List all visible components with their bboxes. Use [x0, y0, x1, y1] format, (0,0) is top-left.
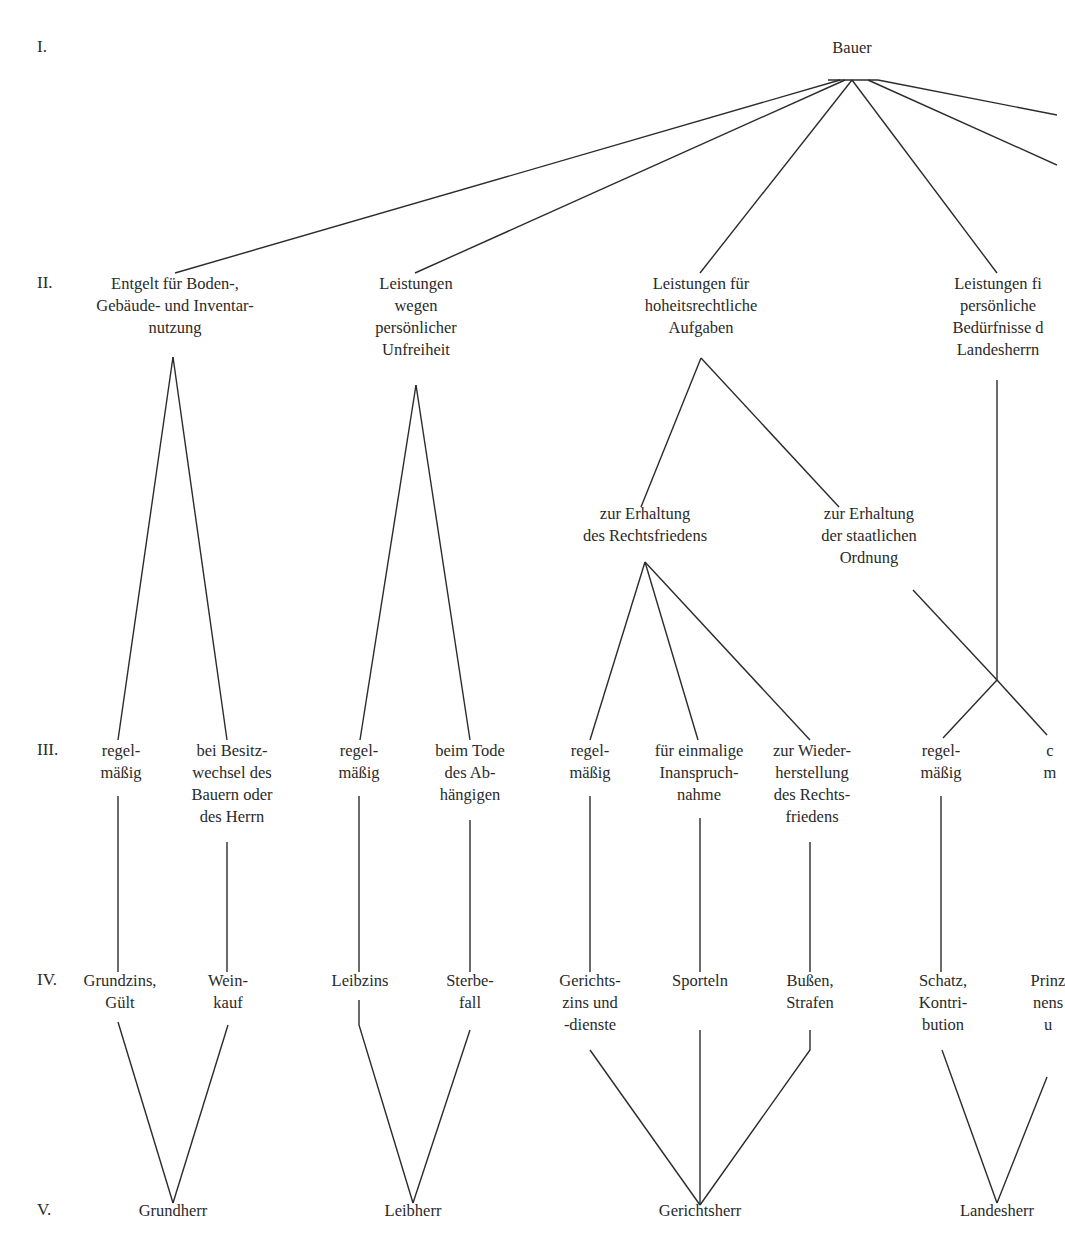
connector-line: [913, 590, 997, 680]
node-besitzwechsel: bei Besitz- wechsel des Bauern oder des …: [191, 740, 272, 828]
connector-line: [118, 1022, 173, 1203]
connector-line: [700, 80, 852, 273]
node-regelmaessig-2: regel- mäßig: [338, 740, 379, 784]
level-label-5: V.: [37, 1200, 51, 1220]
connector-line: [118, 357, 173, 740]
connector-line: [590, 1050, 700, 1205]
node-regelmaessig-1: regel- mäßig: [100, 740, 141, 784]
connector-line: [175, 80, 840, 273]
node-entgelt-nutzung: Entgelt für Boden-, Gebäude- und Inventa…: [96, 273, 253, 339]
connector-line: [173, 1025, 228, 1203]
node-cut-off-prinz: Prinz nens u: [1031, 970, 1065, 1036]
connector-line: [852, 80, 997, 273]
connector-line: [415, 80, 845, 273]
node-regelmaessig-4: regel- mäßig: [920, 740, 961, 784]
connector-line: [943, 680, 997, 738]
node-leibherr: Leibherr: [385, 1200, 442, 1222]
node-hoheitsrechtliche-aufgaben: Leistungen für hoheitsrechtliche Aufgabe…: [645, 273, 758, 339]
node-gerichtszins: Gerichts- zins und -dienste: [559, 970, 620, 1036]
node-gerichtsherr: Gerichtsherr: [659, 1200, 741, 1222]
connector-line: [641, 358, 701, 507]
connector-line: [359, 1000, 413, 1203]
node-wiederherstellung: zur Wieder- herstellung des Rechts- frie…: [773, 740, 851, 828]
node-bauer: Bauer: [832, 37, 871, 59]
connector-line: [700, 1030, 810, 1205]
node-leibzins: Leibzins: [332, 970, 389, 992]
node-erhaltung-rechtsfrieden: zur Erhaltung des Rechtsfriedens: [583, 503, 707, 547]
connector-line: [416, 385, 470, 740]
level-label-1: I.: [37, 37, 47, 57]
level-label-4: IV.: [37, 970, 57, 990]
node-unfreiheit: Leistungen wegen persönlicher Unfreiheit: [375, 273, 457, 361]
connector-line: [173, 357, 227, 740]
node-grundherr: Grundherr: [139, 1200, 208, 1222]
connector-line: [868, 80, 1057, 165]
connector-line: [645, 562, 698, 740]
node-weinkauf: Wein- kauf: [208, 970, 248, 1014]
node-grundzins: Grundzins, Gült: [84, 970, 157, 1014]
node-regelmaessig-3: regel- mäßig: [569, 740, 610, 784]
connector-line: [942, 1050, 997, 1203]
node-schatz-kontribution: Schatz, Kontri- bution: [919, 970, 968, 1036]
level-label-3: III.: [37, 740, 58, 760]
node-landesherr: Landesherr: [960, 1200, 1034, 1222]
node-erhaltung-staatliche-ordnung: zur Erhaltung der staatlichen Ordnung: [821, 503, 917, 569]
connector-line: [360, 385, 416, 740]
connector-line: [413, 1030, 470, 1203]
node-cut-off-level3: c m: [1044, 740, 1057, 784]
connector-line: [878, 80, 1057, 115]
node-beduerfnisse-landesherrn: Leistungen fi persönliche Bedürfnisse d …: [952, 273, 1043, 361]
connector-line: [997, 680, 1047, 735]
node-sterbefall: Sterbe- fall: [446, 970, 494, 1014]
level-label-2: II.: [37, 273, 53, 293]
node-sporteln: Sporteln: [672, 970, 728, 992]
node-einmalige-inanspruchnahme: für einmalige Inanspruch- nahme: [655, 740, 743, 806]
node-bussen-strafen: Bußen, Strafen: [786, 970, 834, 1014]
connector-line: [645, 562, 810, 740]
connector-line: [997, 1077, 1047, 1203]
node-beim-tode: beim Tode des Ab- hängigen: [435, 740, 505, 806]
connector-line: [590, 562, 645, 740]
connector-line: [701, 358, 839, 507]
